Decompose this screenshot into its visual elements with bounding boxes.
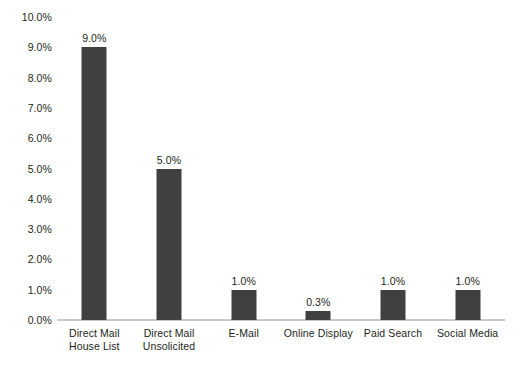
category-label-line: Online Display bbox=[284, 327, 353, 339]
y-axis: 0.0%1.0%2.0%3.0%4.0%5.0%6.0%7.0%8.0%9.0%… bbox=[0, 0, 52, 369]
x-axis-category-label: Social Media bbox=[428, 327, 508, 340]
y-axis-tick-label: 3.0% bbox=[0, 224, 52, 235]
bar[interactable] bbox=[231, 290, 256, 320]
y-axis-tick-label: 4.0% bbox=[0, 194, 52, 205]
y-axis-tick-label: 2.0% bbox=[0, 254, 52, 265]
category-label-line: Direct Mail bbox=[144, 327, 195, 339]
x-axis-category-label: Online Display bbox=[278, 327, 358, 340]
bar-chart: 0.0%1.0%2.0%3.0%4.0%5.0%6.0%7.0%8.0%9.0%… bbox=[0, 0, 524, 369]
bar[interactable] bbox=[455, 290, 480, 320]
y-axis-tick-label: 5.0% bbox=[0, 164, 52, 175]
y-axis-tick-label: 7.0% bbox=[0, 103, 52, 114]
bar-value-label: 9.0% bbox=[82, 33, 106, 44]
y-axis-tick-label: 0.0% bbox=[0, 315, 52, 326]
category-label-line: Paid Search bbox=[364, 327, 422, 339]
y-axis-tick-label: 10.0% bbox=[0, 12, 52, 23]
category-label-line: Unsolicited bbox=[129, 340, 209, 353]
bar-value-label: 0.3% bbox=[306, 297, 330, 308]
bar-value-label: 1.0% bbox=[455, 276, 479, 287]
plot-area: 9.0%5.0%1.0%0.3%1.0%1.0% bbox=[57, 17, 505, 320]
x-axis-category-label: Direct MailUnsolicited bbox=[129, 327, 209, 353]
bar-value-label: 1.0% bbox=[231, 276, 255, 287]
bar[interactable] bbox=[380, 290, 405, 320]
x-axis-category-label: Direct MailHouse List bbox=[54, 327, 134, 353]
y-axis-tick-label: 1.0% bbox=[0, 285, 52, 296]
bar[interactable] bbox=[82, 47, 107, 320]
bar-slot: 9.0% bbox=[57, 17, 132, 320]
y-axis-tick-label: 6.0% bbox=[0, 133, 52, 144]
category-label-line: Social Media bbox=[437, 327, 498, 339]
y-axis-tick-label: 8.0% bbox=[0, 73, 52, 84]
bar-value-label: 5.0% bbox=[157, 155, 181, 166]
bar-slot: 0.3% bbox=[281, 17, 356, 320]
x-axis-category-labels: Direct MailHouse ListDirect MailUnsolici… bbox=[57, 327, 505, 367]
bar[interactable] bbox=[156, 169, 181, 321]
bar-slot: 1.0% bbox=[430, 17, 505, 320]
y-axis-tick-label: 9.0% bbox=[0, 42, 52, 53]
bar-slot: 1.0% bbox=[206, 17, 281, 320]
bar-value-label: 1.0% bbox=[381, 276, 405, 287]
category-label-line: Direct Mail bbox=[69, 327, 120, 339]
bars-layer: 9.0%5.0%1.0%0.3%1.0%1.0% bbox=[57, 17, 505, 320]
category-label-line: House List bbox=[54, 340, 134, 353]
category-label-line: E-Mail bbox=[228, 327, 258, 339]
bar-slot: 5.0% bbox=[132, 17, 207, 320]
x-axis-category-label: E-Mail bbox=[204, 327, 284, 340]
bar[interactable] bbox=[306, 311, 331, 320]
bar-slot: 1.0% bbox=[356, 17, 431, 320]
x-axis-category-label: Paid Search bbox=[353, 327, 433, 340]
